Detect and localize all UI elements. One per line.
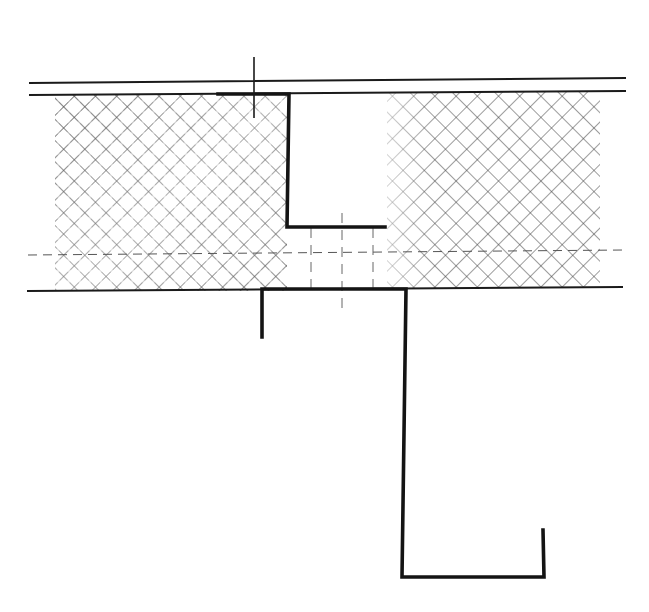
insulation-hatch-left [55,95,287,291]
insulation-hatch-right [387,92,600,288]
lower-z-profile [262,289,544,577]
section-drawing [0,0,649,612]
panel-outer-line-top [30,78,625,83]
